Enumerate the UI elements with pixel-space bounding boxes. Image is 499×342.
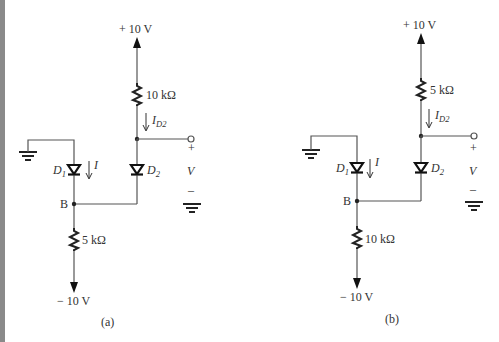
panel-caption: (a) — [101, 315, 114, 329]
diode-d2-icon — [131, 165, 143, 175]
diode-d1-icon — [68, 165, 80, 175]
resistor-top-icon — [133, 83, 141, 106]
resistor-top-value: 5 kΩ — [430, 83, 454, 97]
supply-arrow-up-icon — [417, 33, 425, 78]
resistor-bottom-icon — [353, 226, 361, 249]
output-plus-label: + — [188, 141, 195, 155]
resistor-bottom-value: 5 kΩ — [82, 233, 106, 247]
current-id2-label: ID2 — [434, 108, 450, 124]
diode-d1-label: D1 — [52, 163, 66, 179]
diode-d2-label: D2 — [430, 161, 445, 177]
diode-d1-icon — [351, 163, 363, 173]
supply-arrow-down-icon — [70, 251, 78, 293]
panel-caption: (b) — [385, 312, 399, 326]
resistor-bottom-icon — [70, 228, 78, 251]
resistor-top-value: 10 kΩ — [146, 88, 176, 102]
diode-d2-label: D2 — [146, 163, 161, 179]
node-b — [72, 202, 76, 206]
current-i-label: I — [93, 158, 99, 172]
ground-icon — [183, 204, 201, 212]
output-minus-label: – — [187, 183, 195, 197]
circuit-panel-b: + 10 V 5 kΩ ID2 + V – D2 — [302, 18, 483, 326]
current-i-label: I — [374, 155, 380, 169]
node-b-label: B — [343, 194, 351, 208]
circuit-panel-a: + 10 V 10 kΩ ID2 + V – D2 — [19, 22, 201, 329]
current-arrow-down-icon — [143, 113, 149, 131]
ground-icon — [465, 202, 483, 210]
diode-d2-icon — [415, 163, 427, 173]
supply-bottom-label: − 10 V — [340, 290, 374, 304]
supply-top-label: + 10 V — [403, 18, 437, 32]
supply-arrow-up-icon — [133, 37, 141, 83]
output-voltage-label: V — [469, 164, 478, 178]
output-terminal — [471, 133, 477, 139]
output-minus-label: – — [469, 182, 477, 196]
output-plus-label: + — [470, 141, 477, 155]
circuit-figure: + 10 V 10 kΩ ID2 + V – D2 — [0, 0, 499, 342]
node-b — [355, 199, 359, 203]
current-id2-label: ID2 — [151, 113, 167, 129]
ground-icon — [302, 150, 320, 158]
node-b-label: B — [60, 197, 68, 211]
resistor-bottom-value: 10 kΩ — [365, 232, 395, 246]
supply-bottom-label: − 10 V — [57, 294, 91, 308]
diode-d1-label: D1 — [335, 161, 349, 177]
current-arrow-down-icon — [367, 159, 373, 178]
ground-icon — [19, 152, 37, 160]
current-arrow-down-icon — [426, 109, 432, 128]
resistor-top-icon — [417, 78, 425, 101]
current-arrow-down-icon — [86, 161, 92, 179]
output-voltage-label: V — [187, 164, 196, 178]
supply-top-label: + 10 V — [119, 22, 153, 36]
supply-arrow-down-icon — [353, 249, 361, 289]
